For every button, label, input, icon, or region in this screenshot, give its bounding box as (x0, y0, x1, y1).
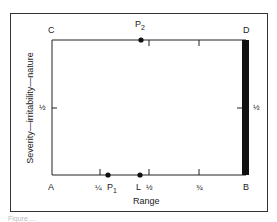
corner-c-label: C (48, 25, 55, 35)
x-tick-half: ½ (146, 183, 153, 193)
p2-label: P2 (135, 19, 145, 33)
figure-caption: Figure ... (8, 215, 36, 222)
point-l (137, 172, 142, 177)
corner-a-label: A (48, 182, 54, 192)
x-tick-three-quarter: ¾ (196, 183, 203, 193)
l-label: L (136, 182, 141, 192)
corner-d-label: D (243, 25, 250, 35)
y-axis-label: Severity—irritability—nature (25, 42, 35, 174)
point-p2 (138, 37, 143, 42)
point-p1 (105, 172, 110, 177)
p1-label: P1 (107, 182, 117, 196)
y-tick-half-left: ½ (39, 103, 46, 113)
x-tick-quarter: ¼ (95, 183, 102, 193)
y-tick-half-right: ½ (253, 103, 260, 113)
thick-bar (242, 40, 249, 175)
corner-b-label: B (243, 182, 249, 192)
x-axis-label: Range (133, 196, 160, 206)
